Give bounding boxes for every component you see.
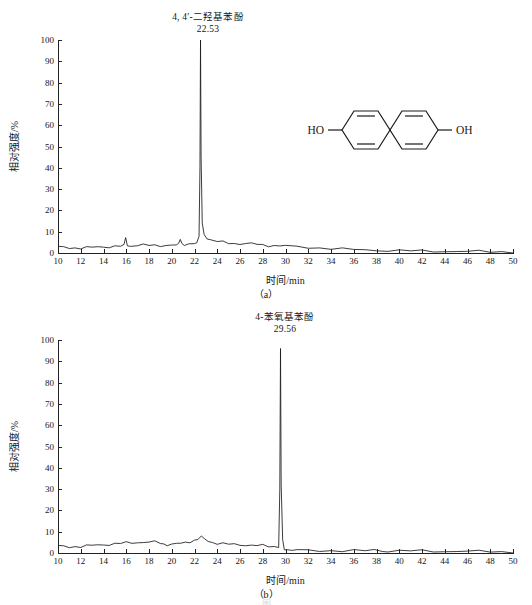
y-tick: [58, 553, 62, 554]
x-tick-label: 42: [418, 256, 427, 266]
y-tick: [58, 489, 62, 490]
y-tick-label: 70: [45, 399, 54, 409]
x-tick: [217, 549, 218, 553]
x-tick-label: 40: [395, 256, 404, 266]
y-tick-label: 30: [45, 484, 54, 494]
x-tick-label: 24: [213, 256, 222, 266]
y-tick-label: 10: [45, 527, 54, 537]
molecule-a-label-right: OH: [456, 124, 472, 136]
y-tick: [58, 232, 62, 233]
x-tick-label: 32: [304, 556, 313, 566]
x-tick: [195, 549, 196, 553]
panel-caption-a: （a）: [0, 286, 532, 301]
trace-path: [58, 349, 513, 553]
x-tick-label: 12: [76, 256, 85, 266]
x-tick: [286, 249, 287, 253]
y-tick-label: 80: [45, 378, 54, 388]
x-tick-label: 48: [486, 256, 495, 266]
y-tick: [58, 168, 62, 169]
x-tick: [308, 549, 309, 553]
x-tick-label: 44: [440, 556, 449, 566]
x-tick-label: 34: [327, 556, 336, 566]
x-tick: [513, 549, 514, 553]
x-tick: [513, 249, 514, 253]
x-tick-label: 28: [258, 256, 267, 266]
x-tick: [490, 549, 491, 553]
x-tick: [104, 549, 105, 553]
figure-root: 4, 4′-二羟基苯酚 22.53 0102030405060708090100…: [0, 0, 532, 605]
x-tick-label: 28: [258, 556, 267, 566]
x-tick-label: 26: [236, 256, 245, 266]
x-tick: [399, 249, 400, 253]
x-tick: [490, 249, 491, 253]
chromatogram-trace-b: [58, 340, 513, 553]
molecule-biphenol-icon: HO OH: [300, 100, 472, 160]
x-tick: [126, 549, 127, 553]
x-tick-label: 26: [236, 556, 245, 566]
x-tick-label: 42: [418, 556, 427, 566]
x-tick-label: 44: [440, 256, 449, 266]
x-tick-label: 36: [349, 256, 358, 266]
x-tick-label: 50: [509, 556, 518, 566]
y-tick-label: 80: [45, 78, 54, 88]
x-tick: [377, 549, 378, 553]
x-tick: [399, 549, 400, 553]
x-tick: [263, 549, 264, 553]
y-tick: [58, 83, 62, 84]
y-tick-label: 50: [45, 142, 54, 152]
x-tick: [468, 249, 469, 253]
x-tick: [104, 249, 105, 253]
y-tick-label: 60: [45, 120, 54, 130]
x-tick: [81, 249, 82, 253]
molecule-a-label-left: HO: [307, 124, 324, 136]
y-tick: [58, 425, 62, 426]
panel-a: 4, 4′-二羟基苯酚 22.53 0102030405060708090100…: [0, 0, 532, 302]
x-tick-label: 10: [54, 256, 63, 266]
figure-bottom-caption: 图: [0, 597, 532, 605]
x-tick: [377, 249, 378, 253]
y-tick-label: 20: [45, 505, 54, 515]
y-tick: [58, 361, 62, 362]
x-tick-label: 22: [190, 256, 199, 266]
y-tick: [58, 404, 62, 405]
x-tick: [240, 549, 241, 553]
x-tick: [354, 249, 355, 253]
x-tick-label: 18: [145, 256, 154, 266]
x-tick: [445, 249, 446, 253]
x-tick: [58, 249, 59, 253]
x-tick: [263, 249, 264, 253]
x-tick-label: 30: [281, 556, 290, 566]
y-tick: [58, 383, 62, 384]
x-tick-label: 46: [463, 256, 472, 266]
y-tick: [58, 189, 62, 190]
panel-b: 4-苯氧基苯酚 29.56 01020304050607080901001012…: [0, 300, 532, 602]
y-tick: [58, 253, 62, 254]
x-tick-label: 16: [122, 556, 131, 566]
x-tick-label: 18: [145, 556, 154, 566]
x-tick-label: 34: [327, 256, 336, 266]
x-tick: [195, 249, 196, 253]
peak-name-b: 4-苯氧基苯酚: [205, 312, 365, 324]
peak-annotation-b: 4-苯氧基苯酚 29.56: [205, 312, 365, 335]
x-tick: [445, 549, 446, 553]
x-tick: [149, 549, 150, 553]
y-tick: [58, 104, 62, 105]
x-tick: [149, 249, 150, 253]
x-tick-label: 22: [190, 556, 199, 566]
x-tick-label: 36: [349, 556, 358, 566]
x-tick: [172, 249, 173, 253]
x-tick: [331, 249, 332, 253]
y-axis-title-a: 相对强度/%: [6, 101, 21, 191]
x-tick-label: 40: [395, 556, 404, 566]
x-tick-label: 12: [76, 556, 85, 566]
x-tick-label: 16: [122, 256, 131, 266]
y-tick: [58, 147, 62, 148]
y-tick-label: 40: [45, 163, 54, 173]
x-tick: [468, 549, 469, 553]
y-tick-label: 90: [45, 356, 54, 366]
y-axis-title-b: 相对强度/%: [6, 401, 21, 491]
y-tick: [58, 447, 62, 448]
y-tick: [58, 532, 62, 533]
peak-annotation-a: 4, 4′-二羟基苯酚 22.53: [128, 12, 288, 35]
x-tick: [331, 549, 332, 553]
